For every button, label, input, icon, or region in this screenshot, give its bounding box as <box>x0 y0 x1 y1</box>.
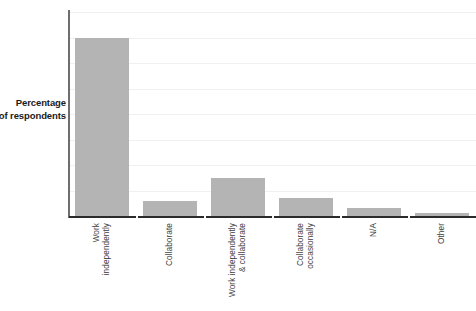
x-axis-label-line-1: Work independently <box>228 223 237 297</box>
x-axis-label-line-1: Collaborate <box>165 223 174 266</box>
bar[interactable] <box>75 38 129 217</box>
x-axis-label: Work independently& collaborate <box>204 220 272 308</box>
x-axis-label: Other <box>408 220 476 308</box>
x-axis-label: N/A <box>340 220 408 308</box>
x-axis-tick <box>408 214 410 219</box>
x-axis-label-line-2: & collaborate <box>238 223 248 297</box>
bars-layer <box>68 12 476 216</box>
x-axis-tick <box>204 214 206 219</box>
x-axis-label: Workindependently <box>68 220 136 308</box>
y-axis-title-line-2: of respondents <box>0 109 66 122</box>
bar[interactable] <box>347 208 401 216</box>
x-axis-labels: WorkindependentlyCollaborateWork indepen… <box>68 220 476 311</box>
x-axis-label-line-1: Work <box>92 223 101 242</box>
bar-chart: Percentage of respondents 01020304050607… <box>0 0 476 311</box>
bar[interactable] <box>279 198 333 216</box>
bar[interactable] <box>143 201 197 216</box>
bar[interactable] <box>211 178 265 216</box>
x-axis-label-line-1: Other <box>437 223 446 244</box>
y-axis-title-line-1: Percentage <box>0 96 66 109</box>
x-axis-tick <box>136 214 138 219</box>
x-axis-tick <box>272 214 274 219</box>
x-axis-label: Collaborate <box>136 220 204 308</box>
x-axis-tick <box>340 214 342 219</box>
bar[interactable] <box>415 213 469 216</box>
x-axis-label-line-1: N/A <box>369 223 378 237</box>
x-axis-label-line-2: occasionally <box>306 223 316 269</box>
x-axis-label-line-1: Collaborate <box>296 223 305 266</box>
x-axis-label: Collaborateoccasionally <box>272 220 340 308</box>
y-axis-title: Percentage of respondents <box>0 96 66 122</box>
x-axis-label-line-2: independently <box>102 223 112 275</box>
